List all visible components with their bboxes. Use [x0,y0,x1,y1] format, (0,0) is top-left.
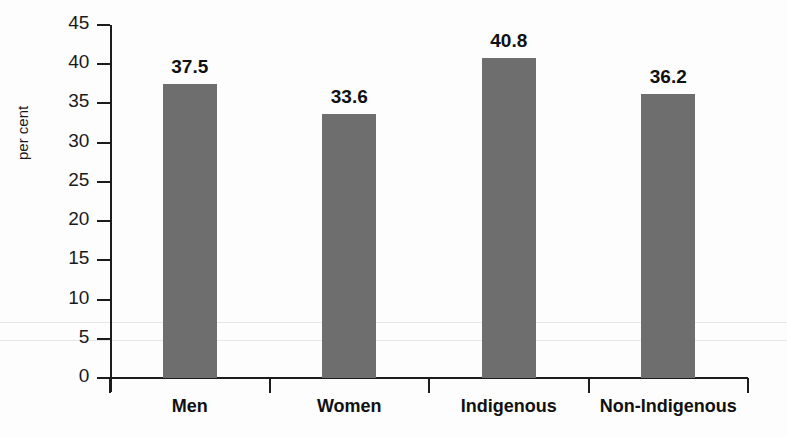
y-axis-tick [97,259,110,261]
y-axis-tick [97,338,110,340]
x-axis-divider-tick [747,378,749,393]
bar [482,58,536,378]
y-axis-tick [97,220,110,222]
y-axis-tick-label: 5 [49,326,89,348]
bar-value-label: 37.5 [140,56,240,78]
bar [163,84,217,378]
y-axis-tick-label: 35 [49,90,89,112]
x-axis-divider-tick [428,378,430,393]
category-label: Women [270,396,430,417]
bar [322,114,376,378]
y-axis-tick [97,63,110,65]
bar-value-label: 36.2 [618,66,718,88]
y-axis-tick-label: 30 [49,130,89,152]
y-axis-tick [97,181,110,183]
y-axis-tick-label: 25 [49,169,89,191]
bar [641,94,695,378]
y-axis-tick-label: 40 [49,51,89,73]
y-axis-tick-label: 45 [49,12,89,34]
category-label: Non-Indigenous [589,396,749,417]
x-axis-divider-tick [588,378,590,393]
y-axis-tick [97,102,110,104]
y-axis-tick [97,299,110,301]
y-axis-tick [97,142,110,144]
y-axis-tick-label: 20 [49,208,89,230]
bar-value-label: 33.6 [299,86,399,108]
y-axis-tick-label: 15 [49,247,89,269]
y-axis-tick [97,24,110,26]
y-axis-line [110,25,112,392]
category-label: Men [110,396,270,417]
bar-chart: per cent 051015202530354045 37.533.640.8… [0,0,787,437]
bar-value-label: 40.8 [459,30,559,52]
y-axis-title: per cent [14,106,31,160]
y-axis-tick-label: 0 [49,365,89,387]
y-axis-tick-label: 10 [49,287,89,309]
x-axis-divider-tick [109,378,111,393]
x-axis-divider-tick [269,378,271,393]
category-label: Indigenous [429,396,589,417]
